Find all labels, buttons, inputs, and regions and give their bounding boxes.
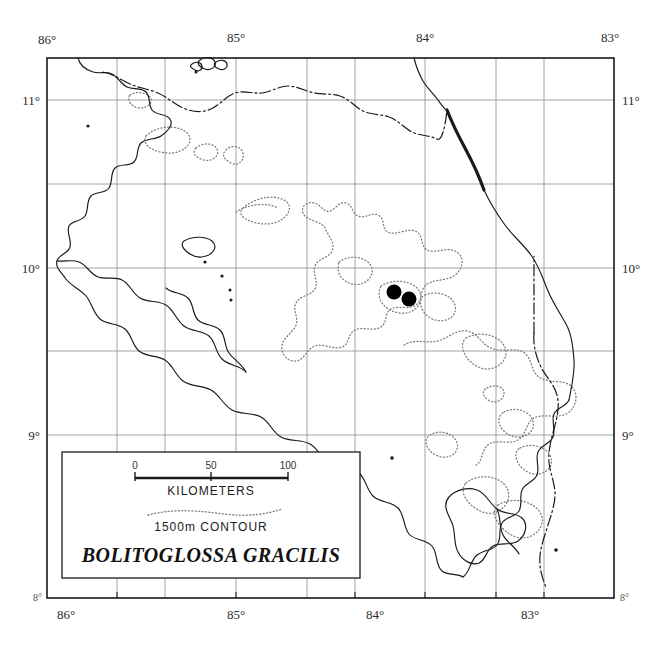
longitude-label-bottom: 83° xyxy=(521,607,539,622)
latitude-label-corner-left: 8° xyxy=(33,592,42,603)
legend-box: 0 50 100 KILOMETERS 1500m CONTOUR BOLITO… xyxy=(62,452,360,578)
map-detail-dot xyxy=(86,124,89,127)
longitude-label-top: 85° xyxy=(227,30,245,45)
latitude-label-left: 11° xyxy=(22,93,40,108)
longitude-label-bottom: 84° xyxy=(366,607,384,622)
species-name-label: BOLITOGLOSSA GRACILIS xyxy=(81,544,341,566)
map-detail-dot xyxy=(230,299,233,302)
map-canvas: 86° 85° 84° 83° 86° 85° 84° 83° 11° 10° … xyxy=(0,0,662,647)
latitude-label-left: 9° xyxy=(28,428,40,443)
map-detail-dot xyxy=(203,260,206,263)
locality-marker xyxy=(387,285,402,300)
latitude-label-right: 9° xyxy=(622,428,634,443)
longitude-label-bottom: 85° xyxy=(227,607,245,622)
scale-bar-label-0: 0 xyxy=(132,460,138,471)
longitude-label-top: 84° xyxy=(416,30,434,45)
scale-bar-label-50: 50 xyxy=(205,460,217,471)
scale-bar-unit-label: KILOMETERS xyxy=(167,484,254,498)
map-detail-dot xyxy=(229,289,232,292)
scale-bar-label-100: 100 xyxy=(280,460,297,471)
locality-marker xyxy=(402,292,417,307)
distribution-map: 86° 85° 84° 83° 86° 85° 84° 83° 11° 10° … xyxy=(0,0,662,647)
contour-legend-label: 1500m CONTOUR xyxy=(154,520,267,534)
map-detail-dot xyxy=(554,548,558,552)
longitude-label-top: 83° xyxy=(601,30,619,45)
latitude-label-right: 10° xyxy=(622,261,640,276)
latitude-label-left: 10° xyxy=(22,261,40,276)
map-detail-dot xyxy=(195,71,198,74)
longitude-label-bottom: 86° xyxy=(57,607,75,622)
longitude-label-top: 86° xyxy=(38,32,56,47)
latitude-label-corner-right: 8° xyxy=(620,592,629,603)
map-detail-dot xyxy=(390,456,394,460)
latitude-label-right: 11° xyxy=(622,93,640,108)
map-detail-dot xyxy=(220,274,223,277)
